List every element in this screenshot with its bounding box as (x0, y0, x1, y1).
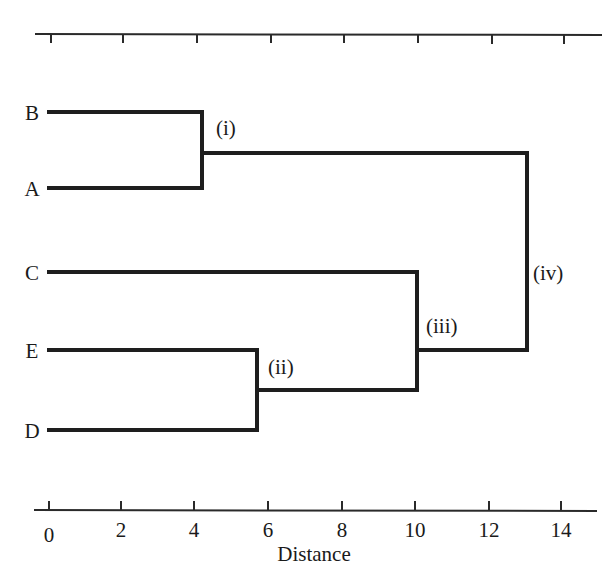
svg-text:10: 10 (405, 518, 426, 542)
dendrogram-figure: 0 2 4 6 8 10 12 14 Distance B A C E D (i… (0, 0, 613, 579)
x-axis-label: Distance (277, 542, 350, 566)
svg-text:12: 12 (479, 518, 500, 542)
branch-iii (49, 272, 417, 390)
leaf-label-e: E (26, 339, 39, 363)
node-labels: (i) (ii) (iii) (iv) (216, 116, 563, 379)
node-label-ii: (ii) (268, 355, 294, 379)
bottom-axis (34, 501, 597, 511)
leaf-label-c: C (25, 261, 39, 285)
node-label-i: (i) (216, 116, 236, 140)
svg-text:4: 4 (189, 518, 200, 542)
dendrogram-branches (49, 112, 527, 430)
svg-text:2: 2 (116, 518, 127, 542)
branch-i (49, 112, 202, 188)
svg-text:0: 0 (44, 523, 55, 547)
leaf-label-a: A (24, 177, 40, 201)
top-axis (35, 34, 602, 44)
branch-ii (49, 350, 257, 430)
leaf-label-b: B (25, 101, 39, 125)
leaf-label-d: D (24, 419, 39, 443)
svg-text:6: 6 (263, 518, 274, 542)
svg-text:8: 8 (337, 518, 348, 542)
svg-text:14: 14 (551, 518, 573, 542)
node-label-iii: (iii) (426, 314, 458, 338)
leaf-labels: B A C E D (24, 101, 40, 443)
node-label-iv: (iv) (533, 261, 563, 285)
